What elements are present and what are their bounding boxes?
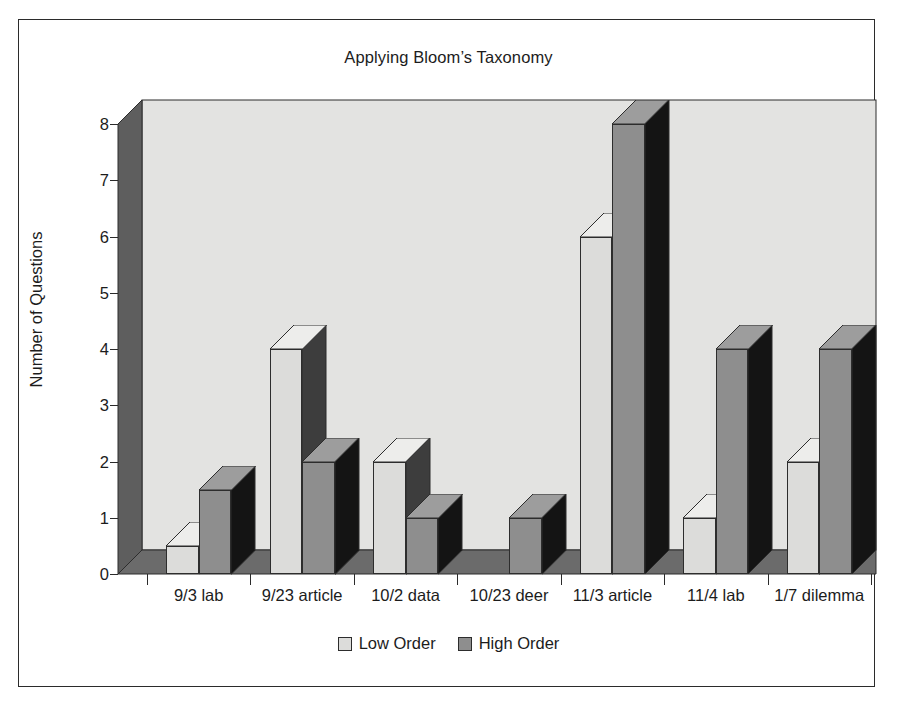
y-tick-label: 1 — [100, 508, 109, 527]
y-tick-mark — [110, 518, 118, 519]
legend-swatch-icon — [338, 637, 352, 651]
y-tick-label: 5 — [100, 283, 109, 302]
legend-swatch-icon — [458, 637, 472, 651]
bar-high-order — [406, 494, 439, 550]
y-tick-mark — [110, 574, 118, 575]
bar-front-face — [373, 462, 406, 575]
y-axis-title: Number of Questions — [27, 190, 46, 430]
bar-top-face — [406, 494, 463, 520]
bar-top-face — [819, 325, 876, 351]
bar-high-order — [199, 466, 232, 550]
bar-high-order — [612, 100, 645, 550]
bar-front-face — [683, 518, 716, 574]
bar-high-order — [302, 438, 335, 551]
bar-low-order — [166, 522, 199, 550]
y-tick-mark — [110, 180, 118, 181]
bar-low-order — [270, 325, 303, 550]
x-tick-label: 11/3 article — [573, 586, 653, 605]
plot-area: 012345678 9/3 lab9/23 article10/2 data10… — [118, 100, 876, 574]
bar-top-face — [373, 438, 430, 464]
x-tick-mark — [147, 574, 148, 585]
x-tick-label: 9/23 article — [262, 586, 343, 605]
bar-low-order — [683, 494, 716, 550]
bar-front-face — [580, 237, 613, 575]
y-tick-label: 7 — [100, 171, 109, 190]
y-tick-label: 8 — [100, 115, 109, 134]
y-tick-mark — [110, 405, 118, 406]
bar-front-face — [302, 462, 335, 575]
legend-item-low-order: Low Order — [338, 634, 436, 653]
bar-side-face — [645, 100, 671, 576]
y-tick-mark — [110, 293, 118, 294]
bar-front-face — [819, 349, 852, 574]
chart-page: Applying Bloom’s Taxonomy Number of Ques… — [0, 0, 897, 709]
x-tick-label: 9/3 lab — [174, 586, 224, 605]
y-tick-mark — [110, 349, 118, 350]
bar-side-face — [852, 325, 878, 576]
bar-front-face — [716, 349, 749, 574]
x-tick-label: 10/23 deer — [470, 586, 549, 605]
x-tick-label: 1/7 dilemma — [774, 586, 864, 605]
bar-high-order — [716, 325, 749, 550]
legend-item-high-order: High Order — [458, 634, 560, 653]
y-tick-mark — [110, 124, 118, 125]
chart-title: Applying Bloom’s Taxonomy — [0, 48, 897, 67]
bar-front-face — [787, 462, 820, 575]
bar-side-face — [748, 325, 774, 576]
y-tick-mark — [110, 237, 118, 238]
bar-front-face — [406, 518, 439, 574]
bar-high-order — [509, 494, 542, 550]
x-tick-label: 11/4 lab — [687, 586, 745, 605]
bar-top-face — [270, 325, 327, 351]
legend-label: Low Order — [359, 634, 436, 653]
bar-top-face — [509, 494, 566, 520]
x-tick-label: 10/2 data — [371, 586, 440, 605]
bar-top-face — [716, 325, 773, 351]
bar-front-face — [166, 546, 199, 574]
y-tick-label: 4 — [100, 340, 109, 359]
bar-high-order — [819, 325, 852, 550]
chart-legend: Low OrderHigh Order — [0, 634, 897, 653]
bar-front-face — [612, 124, 645, 574]
bar-top-face — [302, 438, 359, 464]
bar-top-face — [612, 100, 669, 126]
bar-low-order — [787, 438, 820, 551]
y-tick-label: 0 — [100, 565, 109, 584]
y-tick-mark — [110, 462, 118, 463]
y-tick-label: 3 — [100, 396, 109, 415]
bar-front-face — [509, 518, 542, 574]
y-tick-label: 2 — [100, 452, 109, 471]
bar-top-face — [199, 466, 256, 492]
bar-low-order — [373, 438, 406, 551]
bar-front-face — [199, 490, 232, 574]
bar-low-order — [580, 213, 613, 551]
y-tick-label: 6 — [100, 227, 109, 246]
bar-front-face — [270, 349, 303, 574]
legend-label: High Order — [479, 634, 560, 653]
